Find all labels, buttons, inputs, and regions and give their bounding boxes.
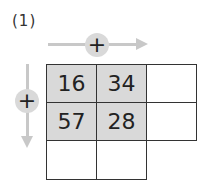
grid-cell-r0c1: 34 bbox=[96, 64, 147, 103]
answer-cell-r2c0[interactable] bbox=[46, 140, 97, 180]
answer-cell-r1c2[interactable] bbox=[146, 102, 197, 141]
grid-cell-r1c1: 28 bbox=[96, 102, 147, 141]
answer-cell-r2c1[interactable] bbox=[96, 140, 147, 180]
plus-icon-horizontal: + bbox=[85, 33, 109, 57]
grid-cell-r0c0: 16 bbox=[46, 64, 97, 103]
grid-cell-r1c0: 57 bbox=[46, 102, 97, 141]
answer-cell-r0c2[interactable] bbox=[146, 64, 197, 103]
arrow-right-icon bbox=[136, 38, 148, 50]
arrow-down-icon bbox=[21, 136, 33, 148]
problem-label: (1) bbox=[12, 12, 36, 30]
plus-icon-vertical: + bbox=[15, 89, 39, 113]
